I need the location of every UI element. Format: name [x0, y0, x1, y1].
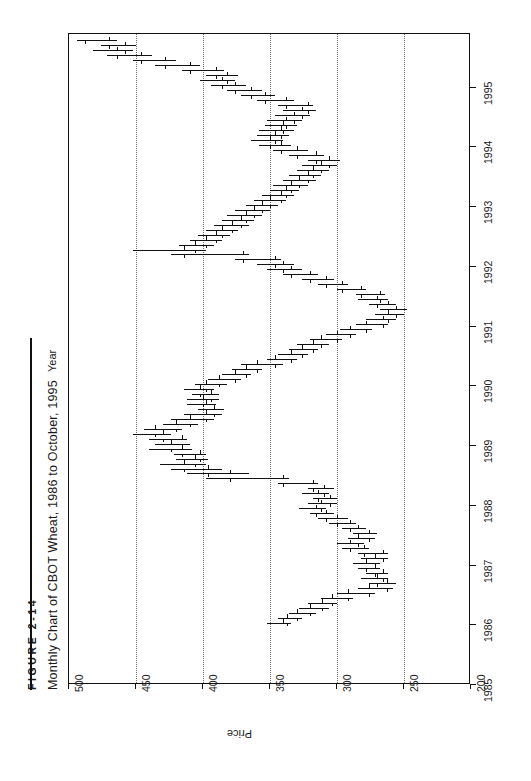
ohlc-range-line [353, 563, 380, 564]
ohlc-range-line [227, 90, 262, 91]
ohlc-open-tick [380, 291, 381, 295]
ohlc-close-tick [203, 404, 204, 408]
ohlc-range-line [308, 160, 340, 161]
ohlc-close-tick [216, 75, 217, 79]
ohlc-close-tick [214, 414, 215, 418]
ohlc-close-tick [310, 613, 311, 617]
year-tick-mark-1991 [470, 326, 476, 327]
ohlc-open-tick [350, 520, 351, 524]
ohlc-close-tick [358, 533, 359, 537]
ohlc-range-line [348, 538, 375, 539]
year-tick-mark-1987 [470, 565, 476, 566]
ohlc-close-tick [364, 553, 365, 557]
ohlc-close-tick [163, 439, 164, 443]
ohlc-close-tick [350, 528, 351, 532]
ohlc-range-line [176, 459, 208, 460]
ohlc-close-tick [254, 215, 255, 219]
ohlc-open-tick [275, 256, 276, 260]
ohlc-close-tick [235, 90, 236, 94]
year-tick-label: 1995 [482, 81, 494, 104]
ohlc-open-tick [361, 286, 362, 290]
ohlc-range-line [187, 404, 216, 405]
ohlc-open-tick [176, 420, 177, 424]
ohlc-close-tick [294, 120, 295, 124]
ohlc-open-tick [286, 186, 287, 190]
ohlc-open-tick [377, 296, 378, 300]
ohlc-open-tick [302, 107, 303, 111]
gridline-price-250 [404, 34, 405, 683]
ohlc-open-tick [262, 201, 263, 205]
ohlc-close-tick [297, 155, 298, 159]
ohlc-open-tick [184, 460, 185, 464]
ohlc-range-line [366, 319, 395, 320]
ohlc-open-tick [388, 301, 389, 305]
ohlc-range-line [270, 190, 299, 191]
ohlc-range-line [259, 130, 294, 131]
ohlc-range-line [160, 464, 206, 465]
ohlc-range-line [198, 235, 230, 236]
ohlc-close-tick [313, 488, 314, 492]
ohlc-range-line [310, 513, 334, 514]
ohlc-open-tick [326, 510, 327, 514]
ohlc-range-line [302, 493, 329, 494]
ohlc-close-tick [369, 538, 370, 542]
price-tick-label: 350 [274, 674, 286, 692]
ohlc-close-tick [286, 105, 287, 109]
ohlc-close-tick [275, 140, 276, 144]
ohlc-open-tick [206, 380, 207, 384]
ohlc-open-tick [310, 271, 311, 275]
ohlc-close-tick [283, 269, 284, 273]
ohlc-close-tick [375, 573, 376, 577]
ohlc-open-tick [211, 390, 212, 394]
ohlc-open-tick [313, 340, 314, 344]
ohlc-open-tick [182, 435, 183, 439]
ohlc-close-tick [366, 568, 367, 572]
ohlc-close-tick [287, 623, 288, 627]
price-tick-mark-450 [135, 684, 136, 689]
ohlc-open-tick [281, 141, 282, 145]
ohlc-open-tick [141, 52, 142, 56]
ohlc-range-line [206, 478, 289, 479]
ohlc-range-line [227, 215, 262, 216]
ohlc-range-line [342, 528, 366, 529]
ohlc-close-tick [299, 185, 300, 189]
ohlc-open-tick [291, 181, 292, 185]
ohlc-range-line [337, 543, 364, 544]
ohlc-range-line [214, 225, 249, 226]
ohlc-open-tick [286, 97, 287, 101]
ohlc-close-tick [222, 85, 223, 89]
year-tick-label: 1994 [482, 141, 494, 164]
ohlc-close-tick [109, 45, 110, 49]
ohlc-range-line [289, 155, 324, 156]
year-tick-label: 1986 [482, 619, 494, 642]
ohlc-close-tick [322, 608, 323, 612]
ohlc-open-tick [310, 604, 311, 608]
ohlc-range-line [184, 414, 222, 415]
ohlc-close-tick [85, 40, 86, 44]
ohlc-close-tick [176, 429, 177, 433]
ohlc-range-line [171, 469, 222, 470]
price-tick-mark-250 [403, 684, 404, 689]
ohlc-open-tick [297, 609, 298, 613]
year-tick-label: 1985 [482, 679, 494, 702]
ohlc-close-tick [241, 225, 242, 229]
ohlc-open-tick [206, 236, 207, 240]
ohlc-close-tick [361, 294, 362, 298]
year-tick-label: 1992 [482, 261, 494, 284]
ohlc-open-tick [348, 589, 349, 593]
ohlc-close-tick [321, 344, 322, 348]
ohlc-close-tick [310, 279, 311, 283]
ohlc-close-tick [251, 95, 252, 99]
ohlc-open-tick [235, 370, 236, 374]
ohlc-open-tick [332, 594, 333, 598]
ohlc-range-line [299, 608, 328, 609]
ohlc-range-line [133, 434, 171, 435]
ohlc-close-tick [184, 254, 185, 258]
ohlc-open-tick [321, 335, 322, 339]
gridline-price-450 [136, 34, 137, 683]
ohlc-close-tick [383, 578, 384, 582]
ohlc-range-line [313, 498, 337, 499]
ohlc-range-line [149, 439, 187, 440]
ohlc-open-tick [214, 405, 215, 409]
year-tick-mark-1993 [470, 206, 476, 207]
